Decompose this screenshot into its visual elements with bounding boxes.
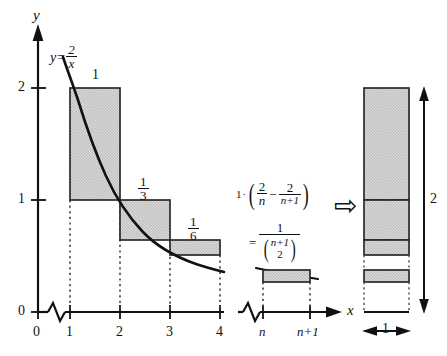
col-seg-rest [364,255,409,312]
x-axis-arrowhead [326,307,342,318]
col-seg-1-6 [364,240,409,255]
bar-label-1-6: 16 [188,216,199,244]
bar-label-1-3: 13 [138,176,149,204]
dim-arrowhead-bottom [419,299,429,314]
binom-stack: n+12 [271,237,289,260]
y-axis-label: y [33,8,40,23]
formula-open-paren: ( [249,180,255,209]
formula-dot: · [242,189,248,200]
x-axis-label: x [347,303,354,318]
x-tick-label-0: 0 [33,325,40,339]
col-seg-1-3 [364,200,409,240]
y-tick-label-1: 1 [18,192,25,206]
bar-label-1-3-num: 1 [138,175,149,188]
x-tick-label-4: 4 [216,325,223,339]
x-axis [38,303,224,321]
binom-open-paren: ( [264,236,269,261]
formula-line-2: =1(n+12) [249,222,300,262]
formula-t1-num: 2 [257,180,268,193]
bar-label-1-6-den: 6 [188,228,199,242]
curve-eq-equals: = [56,51,66,65]
formula-result-num: 1 [259,221,300,234]
formula-term-2: 2n+1 [279,181,301,206]
formula-result-fraction: 1(n+12) [259,221,300,261]
curve-eq-num: 2 [66,43,77,56]
bar-label-1-3-den: 3 [138,188,149,202]
formula-line-1: 1·(2n−2n+1) [236,180,311,209]
formula-t2-den: n+1 [279,194,301,206]
formula-equals: = [249,236,259,249]
bar-label-1: 1 [92,68,99,82]
y-axis [33,24,44,312]
column-width-label: 1 [382,322,389,336]
x-tick-label-2: 2 [116,325,123,339]
curve-equation: y=2x [50,44,77,72]
bar-n-to-n1 [263,270,310,282]
x-tick-label-n: n [259,325,266,338]
bar-1-to-2 [70,88,120,200]
col-seg-1 [364,88,409,200]
bar-label-1-6-num: 1 [188,215,199,228]
x-tick-label-n-plus-1: n+1 [297,325,319,338]
formula-t2-num: 2 [279,181,301,194]
y-tick-label-0: 0 [18,304,25,318]
dim-arrowhead-top [419,86,429,101]
formula-minus: − [267,188,278,201]
binom-bottom: 2 [271,249,289,261]
dim-arrowhead-right [396,326,411,335]
x-tick-label-3: 3 [166,325,173,339]
dim-arrowhead-left [362,326,377,335]
implies-arrow: ⇨ [334,192,357,220]
formula-close-paren: ) [303,180,309,209]
formula-term-1: 2n [257,180,268,208]
formula-binomial: (n+12) [259,234,300,261]
col-seg-n [364,270,409,282]
curve-eq-den: x [66,56,77,70]
column-height-label: 2 [430,192,437,206]
y-tick-label-2: 2 [18,80,25,94]
binom-close-paren: ) [291,236,296,261]
formula-t1-den: n [257,193,268,207]
x-axis-right-segment [238,303,330,321]
curve-eq-fraction: 2x [66,43,77,71]
x-tick-label-1: 1 [66,325,73,339]
